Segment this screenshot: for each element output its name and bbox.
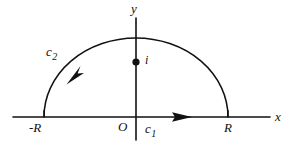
contour-label-c1-subscript: 1 <box>151 128 157 139</box>
y-axis-label: y <box>131 2 137 15</box>
pole-label-i: i <box>145 54 148 66</box>
contour-label-c1-base: c <box>145 121 151 136</box>
contour-label-c2-subscript: 2 <box>52 51 58 62</box>
contour-label-c2-base: c <box>46 44 52 59</box>
origin-label: O <box>118 120 127 133</box>
left-endpoint-label: -R <box>29 121 41 134</box>
c2-direction-arrowhead <box>67 66 85 85</box>
right-endpoint-label: R <box>224 121 232 134</box>
contour-label-c2: c2 <box>46 45 57 62</box>
pole-dot-i <box>132 58 139 65</box>
x-axis-label: x <box>275 110 281 123</box>
c1-direction-arrowhead <box>172 112 192 122</box>
contour-diagram-figure: y x O -R R i c1 c2 <box>0 0 291 151</box>
contour-label-c1: c1 <box>145 122 156 139</box>
